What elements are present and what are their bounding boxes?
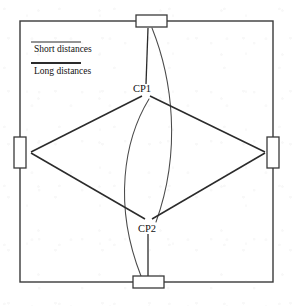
short-distance-edge-cp2-right bbox=[152, 153, 265, 219]
station-marker-left[interactable] bbox=[14, 137, 26, 168]
short-distance-edge-left-cp2 bbox=[31, 153, 145, 219]
short-distance-edge-cp1-right bbox=[150, 96, 265, 152]
legend-item-short: Short distances bbox=[31, 42, 92, 54]
legend-item-long: Long distances bbox=[31, 63, 92, 76]
long-distance-edge-cp1-bottom bbox=[125, 99, 149, 276]
diagram-canvas: Short distances Long distances CP1 CP2 bbox=[0, 0, 294, 306]
station-marker-right[interactable] bbox=[267, 137, 279, 168]
legend-label-long: Long distances bbox=[34, 66, 92, 76]
legend-label-short: Short distances bbox=[34, 44, 92, 54]
station-marker-top[interactable] bbox=[136, 15, 167, 27]
legend: Short distances Long distances bbox=[31, 42, 92, 76]
control-point-label-cp2: CP2 bbox=[138, 223, 156, 234]
long-distance-edge-top-cp2 bbox=[152, 28, 172, 222]
control-point-label-cp1: CP1 bbox=[133, 83, 151, 94]
survey-network-diagram: Short distances Long distances CP1 CP2 bbox=[0, 0, 294, 306]
short-distance-edge-cp1-left bbox=[31, 96, 142, 152]
short-distance-edge-top-cp1 bbox=[146, 28, 148, 84]
station-marker-bottom[interactable] bbox=[133, 276, 164, 288]
